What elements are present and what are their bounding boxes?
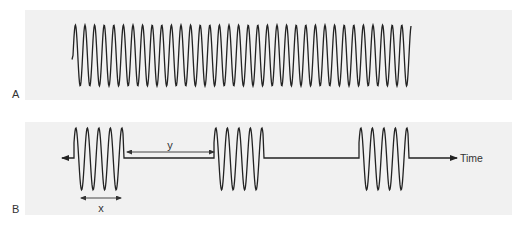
pulse-interval-label: y [167,139,173,151]
wave-diagram: x y Time [0,0,521,227]
pulsed-wave [62,128,457,190]
continuous-wave [72,25,411,86]
pulse-duration-label: x [98,202,104,214]
time-axis-label: Time [460,152,483,164]
